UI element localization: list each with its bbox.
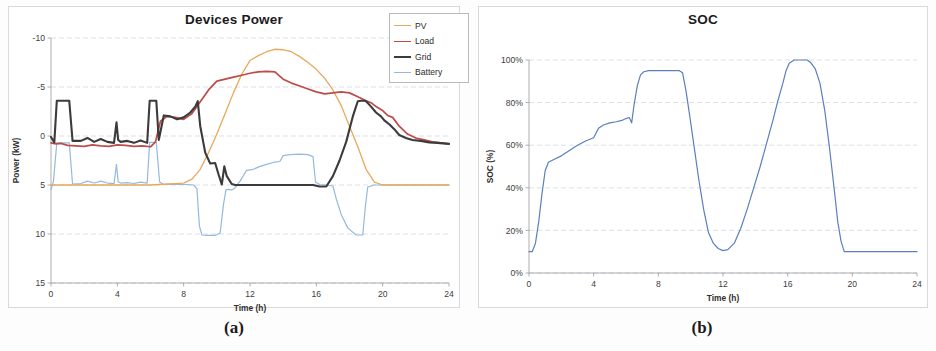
panel-caption-b: (b) bbox=[468, 318, 936, 338]
x-tick-label: 0 bbox=[527, 279, 532, 289]
legend-swatch-grid bbox=[394, 56, 411, 58]
legend-devices-power: PV Load Grid Battery bbox=[389, 13, 469, 83]
y-tick-label: 15 bbox=[35, 278, 45, 288]
x-tick-label: 4 bbox=[591, 279, 596, 289]
x-tick-label: 12 bbox=[245, 289, 255, 299]
y-tick-label: 80% bbox=[506, 98, 524, 108]
legend-item-grid: Grid bbox=[394, 49, 465, 65]
x-tick-label: 8 bbox=[656, 279, 661, 289]
y-tick-label: 100% bbox=[501, 55, 523, 65]
series-line-battery bbox=[51, 142, 449, 235]
legend-label-load: Load bbox=[415, 36, 434, 46]
y-axis-label: SOC (%) bbox=[485, 150, 495, 184]
legend-label-battery: Battery bbox=[415, 67, 442, 77]
soc-plot: 0%20%40%60%80%100%04812162024Time (h)SOC… bbox=[479, 7, 927, 307]
x-tick-label: 0 bbox=[49, 289, 54, 299]
y-tick-label: 0% bbox=[511, 268, 524, 278]
y-tick-label: 5 bbox=[40, 180, 45, 190]
panel-a: Devices Power 151050-5-1004812162024Time… bbox=[0, 0, 468, 351]
x-axis-label: Time (h) bbox=[234, 303, 267, 313]
x-tick-label: 20 bbox=[378, 289, 388, 299]
legend-item-pv: PV bbox=[394, 18, 465, 34]
series-line-grid bbox=[51, 101, 449, 187]
y-tick-label: 0 bbox=[40, 131, 45, 141]
x-tick-label: 20 bbox=[848, 279, 858, 289]
y-tick-label: 20% bbox=[506, 226, 524, 236]
y-tick-label: 40% bbox=[506, 183, 524, 193]
legend-swatch-battery bbox=[394, 72, 411, 73]
chart-title-soc: SOC bbox=[479, 12, 927, 27]
x-axis-label: Time (h) bbox=[707, 293, 740, 303]
legend-label-pv: PV bbox=[415, 21, 426, 31]
y-tick-label: -10 bbox=[33, 33, 46, 43]
x-tick-label: 12 bbox=[718, 279, 728, 289]
x-tick-label: 24 bbox=[912, 279, 922, 289]
legend-item-battery: Battery bbox=[394, 65, 465, 81]
panel-b: SOC 0%20%40%60%80%100%04812162024Time (h… bbox=[468, 0, 936, 351]
y-tick-label: 10 bbox=[35, 229, 45, 239]
devices-power-chart: Devices Power 151050-5-1004812162024Time… bbox=[8, 6, 460, 308]
x-tick-label: 8 bbox=[181, 289, 186, 299]
legend-swatch-pv bbox=[394, 25, 411, 26]
x-tick-label: 24 bbox=[444, 289, 454, 299]
panel-caption-a: (a) bbox=[0, 318, 468, 338]
legend-item-load: Load bbox=[394, 34, 465, 50]
legend-swatch-load bbox=[394, 41, 411, 42]
y-axis-label: Power (kW) bbox=[11, 137, 21, 183]
legend-label-grid: Grid bbox=[415, 52, 431, 62]
figure-sheet: Devices Power 151050-5-1004812162024Time… bbox=[0, 0, 936, 351]
x-tick-label: 4 bbox=[115, 289, 120, 299]
y-tick-label: -5 bbox=[37, 82, 45, 92]
soc-chart: SOC 0%20%40%60%80%100%04812162024Time (h… bbox=[478, 6, 928, 308]
y-tick-label: 60% bbox=[506, 140, 524, 150]
x-tick-label: 16 bbox=[312, 289, 322, 299]
x-tick-label: 16 bbox=[783, 279, 793, 289]
series-line-soc bbox=[529, 60, 917, 252]
